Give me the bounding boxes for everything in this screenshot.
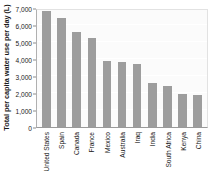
y-axis-tick-label: 3,000 [15,74,32,81]
x-axis-tick-slot: Kenya [175,129,190,193]
bar-slot [160,10,175,127]
x-axis-tick-label: South Africa [164,132,171,168]
bar[interactable] [133,64,142,127]
bar[interactable] [42,11,51,127]
x-axis-tick-label: Spain [57,132,64,149]
bar[interactable] [193,95,202,127]
y-axis-title-text: Total per capita water use per day (L) [2,4,11,130]
bar[interactable] [148,83,157,127]
x-axis-tick-label: United States [42,132,49,172]
plot-area [36,9,208,128]
bar-slot [130,10,145,127]
x-axis-tick-label: India [149,132,156,146]
x-axis-tick-label: Mexico [103,132,110,153]
y-axis-tick-label: 7,000 [15,6,32,13]
bar[interactable] [103,61,112,127]
y-axis-tick-labels: 7,0006,0005,0004,0003,0002,0001,0000 [12,0,36,134]
x-axis-tick-slot: Canada [69,129,84,193]
y-axis-tick-label: 0 [28,125,32,132]
bar-slot [54,10,69,127]
bar-slot [114,10,129,127]
bar[interactable] [118,62,127,127]
x-axis-tick-label: China [195,132,202,149]
bar-slot [69,10,84,127]
bar-slot [175,10,190,127]
bar[interactable] [163,86,172,127]
x-axis-tick-label: France [88,132,95,153]
bar-slot [145,10,160,127]
bar[interactable] [88,38,97,127]
bar[interactable] [178,94,187,127]
y-axis-tick-label: 2,000 [15,91,32,98]
bar-slot [99,10,114,127]
bar-slot [190,10,205,127]
x-axis-tick-label: Canada [73,132,80,155]
bar-slot [84,10,99,127]
y-axis-tick-label: 1,000 [15,108,32,115]
x-axis-tick-slot: Australia [114,129,129,193]
x-axis-tick-slot: South Africa [160,129,175,193]
x-axis-tick-slot: Iraq [130,129,145,193]
bar[interactable] [57,18,66,127]
x-axis-tick-slot: Mexico [99,129,114,193]
bar-series [37,10,207,127]
x-axis-tick-slot: Spain [53,129,68,193]
x-axis-tick-slot: China [191,129,206,193]
x-axis-tick-slot: India [145,129,160,193]
x-axis-tick-labels: United StatesSpainCanadaFranceMexicoAust… [36,129,208,193]
bar-slot [39,10,54,127]
x-axis-tick-slot: United States [38,129,53,193]
x-axis-tick-label: Australia [118,132,125,158]
y-axis-tick-label: 5,000 [15,40,32,47]
y-axis-tick-label: 4,000 [15,57,32,64]
x-axis-tick-label: Kenya [180,132,187,151]
y-axis-title: Total per capita water use per day (L) [0,0,12,134]
bar[interactable] [72,32,81,127]
x-axis-tick-slot: France [84,129,99,193]
bar-chart: Total per capita water use per day (L) 7… [0,0,212,193]
y-axis-tick-label: 6,000 [15,23,32,30]
x-axis-tick-label: Iraq [134,132,141,143]
gridline [37,7,207,8]
